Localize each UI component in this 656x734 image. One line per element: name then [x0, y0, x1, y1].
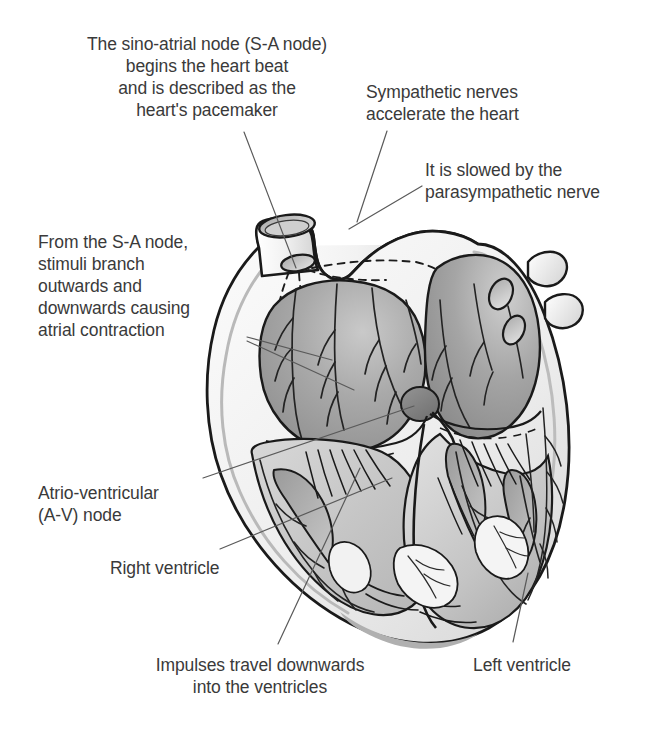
leader-left-ventricle — [513, 573, 528, 642]
label-left-ventricle: Left ventricle — [473, 654, 623, 676]
leader-impulses — [278, 468, 360, 644]
leader-av-node — [203, 406, 414, 478]
heart-conduction-diagram: The sino-atrial node (S-A node) begins t… — [0, 0, 656, 734]
label-stimuli-branch: From the S-A node, stimuli branch outwar… — [38, 231, 258, 341]
label-sympathetic-nerves: Sympathetic nerves accelerate the heart — [366, 81, 576, 125]
label-right-ventricle: Right ventricle — [110, 557, 270, 579]
leader-stimuli-b — [247, 341, 354, 390]
leader-right-ventricle — [220, 478, 392, 549]
label-sino-atrial-node: The sino-atrial node (S-A node) begins t… — [52, 33, 362, 121]
leader-parasympathetic — [349, 186, 422, 229]
leader-stimuli-a — [247, 337, 332, 360]
label-impulses-travel-downwards: Impulses travel downwards into the ventr… — [134, 654, 386, 698]
label-parasympathetic-nerve: It is slowed by the parasympathetic nerv… — [425, 159, 655, 203]
leader-sympathetic — [357, 131, 387, 222]
label-atrio-ventricular-node: Atrio-ventricular (A-V) node — [38, 482, 228, 526]
